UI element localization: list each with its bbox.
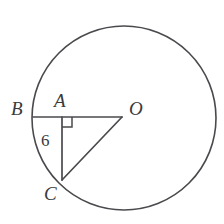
- main-circle: [32, 26, 216, 210]
- right-angle-marker-icon: [62, 117, 72, 127]
- segment-length-label-ac: 6: [41, 132, 50, 149]
- point-label-c: C: [44, 184, 57, 203]
- point-label-a: A: [54, 91, 66, 110]
- geometry-canvas: [0, 0, 224, 224]
- geometry-figure: B A O C 6: [0, 0, 224, 224]
- point-label-o: O: [129, 99, 143, 118]
- point-label-b: B: [11, 99, 23, 118]
